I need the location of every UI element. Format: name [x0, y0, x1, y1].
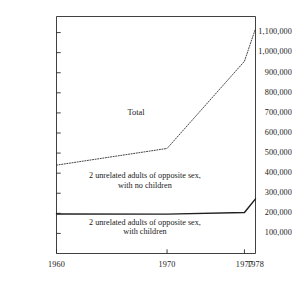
line-chart-canvas — [0, 0, 292, 282]
chart-background — [0, 0, 292, 282]
y-tick-label: 500,000 — [244, 149, 293, 157]
chart-figure: 1,100,0001,000,000900,000800,000700,0006… — [0, 0, 292, 282]
y-tick-label: 800,000 — [244, 89, 293, 97]
x-tick-label: 1978 — [247, 261, 264, 269]
y-tick-label: 700,000 — [244, 109, 293, 117]
y-tick-label: 400,000 — [244, 169, 293, 177]
annotation-series-label: with no children — [118, 181, 172, 191]
x-tick-label: 1960 — [48, 261, 65, 269]
x-tick-label: 1970 — [158, 261, 175, 269]
y-tick-label: 1,000,000 — [244, 48, 293, 56]
y-tick-label: 300,000 — [244, 189, 293, 197]
y-tick-label: 1,100,000 — [244, 28, 293, 36]
y-tick-label: 200,000 — [244, 209, 293, 217]
annotation-total: Total — [128, 108, 145, 117]
y-tick-label: 600,000 — [244, 129, 293, 137]
y-tick-label: 900,000 — [244, 69, 293, 77]
y-tick-label: 100,000 — [244, 229, 293, 237]
annotation-series-label: 2 unrelated adults of opposite sex, — [89, 171, 201, 181]
annotation-series-label: with children — [123, 227, 166, 237]
